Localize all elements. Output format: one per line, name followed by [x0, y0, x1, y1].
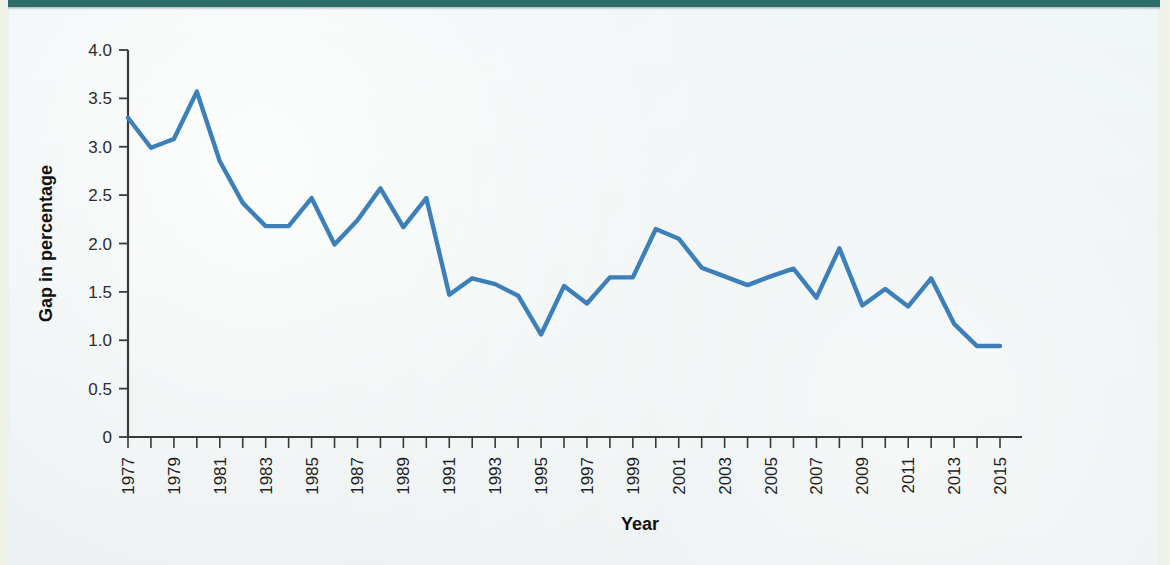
chart-page: 00.51.01.52.02.53.03.54.0 19771979198119…	[0, 0, 1170, 565]
y-tick-label: 0	[103, 428, 112, 447]
x-tick-label: 2001	[670, 457, 689, 495]
x-axis: 1977197919811983198519871989199119931995…	[119, 437, 1022, 495]
y-tick-label: 4.0	[88, 41, 112, 60]
x-tick-label: 2003	[716, 457, 735, 495]
data-series-group	[128, 92, 1000, 346]
x-tick-label: 1977	[119, 457, 138, 495]
y-axis-title: Gap in percentage	[36, 165, 56, 322]
x-tick-label: 1983	[257, 457, 276, 495]
x-axis-title: Year	[621, 514, 659, 534]
x-tick-label: 2015	[991, 457, 1010, 495]
y-tick-label: 1.5	[88, 283, 112, 302]
x-tick-label: 1979	[165, 457, 184, 495]
x-tick-label: 2013	[945, 457, 964, 495]
y-tick-label: 1.0	[88, 331, 112, 350]
y-tick-label: 0.5	[88, 380, 112, 399]
x-tick-label: 1995	[532, 457, 551, 495]
x-tick-label: 1989	[394, 457, 413, 495]
x-tick-label: 1997	[578, 457, 597, 495]
y-tick-label: 2.0	[88, 235, 112, 254]
x-tick-label: 1999	[624, 457, 643, 495]
x-tick-label: 2007	[807, 457, 826, 495]
x-tick-label: 2005	[762, 457, 781, 495]
x-tick-label: 1981	[211, 457, 230, 495]
x-tick-label: 1985	[303, 457, 322, 495]
y-tick-label: 2.5	[88, 186, 112, 205]
chart-svg: 00.51.01.52.02.53.03.54.0 19771979198119…	[0, 0, 1170, 565]
x-tick-label: 2009	[853, 457, 872, 495]
x-tick-label: 2011	[899, 457, 918, 494]
y-tick-label: 3.5	[88, 89, 112, 108]
x-tick-label: 1993	[486, 457, 505, 495]
line-chart: 00.51.01.52.02.53.03.54.0 19771979198119…	[0, 0, 1170, 565]
x-tick-label: 1991	[440, 457, 459, 495]
x-tick-label: 1987	[348, 457, 367, 495]
y-axis: 00.51.01.52.02.53.03.54.0	[88, 41, 128, 447]
y-tick-label: 3.0	[88, 138, 112, 157]
data-line-gap-in-percentage	[128, 92, 1000, 346]
